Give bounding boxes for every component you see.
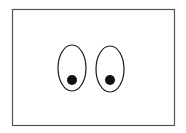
right-eye	[96, 46, 124, 92]
right-eye-outline	[96, 46, 124, 92]
right-pupil	[105, 75, 115, 85]
left-pupil	[67, 75, 77, 85]
eyes-figure	[0, 0, 186, 133]
picture-frame	[13, 10, 175, 126]
left-eye	[58, 45, 86, 91]
